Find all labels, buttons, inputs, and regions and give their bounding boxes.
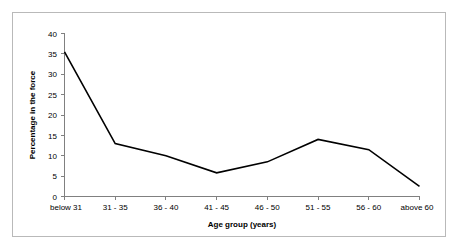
x-tick-label: 56 - 60 bbox=[356, 203, 381, 212]
y-axis-title: Percentage in the force bbox=[28, 70, 37, 159]
x-tick-label: below 31 bbox=[50, 203, 83, 212]
chart-figure: 40 35 30 25 20 15 10 5 0 below 31 31 - bbox=[0, 0, 461, 252]
x-tick-label: 51 - 55 bbox=[306, 203, 331, 212]
y-tick-label: 40 bbox=[48, 30, 57, 39]
chart-frame: 40 35 30 25 20 15 10 5 0 below 31 31 - bbox=[12, 12, 446, 237]
y-tick-label: 15 bbox=[48, 132, 57, 141]
data-series-line bbox=[65, 52, 420, 186]
x-tick-label: 36 - 40 bbox=[153, 203, 178, 212]
y-tick-label: 5 bbox=[53, 172, 58, 181]
x-axis-ticks bbox=[65, 197, 420, 201]
x-tick-label: 31 - 35 bbox=[103, 203, 128, 212]
x-tick-label: 46 - 50 bbox=[255, 203, 280, 212]
x-axis-title: Age group (years) bbox=[208, 220, 277, 229]
line-chart-plot: 40 35 30 25 20 15 10 5 0 below 31 31 - bbox=[13, 13, 445, 236]
y-tick-label: 25 bbox=[48, 91, 57, 100]
y-tick-label: 20 bbox=[48, 111, 57, 120]
y-tick-label: 10 bbox=[48, 152, 57, 161]
x-tick-label: above 60 bbox=[401, 203, 434, 212]
x-tick-label: 41 - 45 bbox=[204, 203, 229, 212]
y-axis-ticks bbox=[61, 34, 65, 197]
y-tick-label: 30 bbox=[48, 70, 57, 79]
y-tick-label: 0 bbox=[53, 193, 58, 202]
y-tick-label: 35 bbox=[48, 50, 57, 59]
